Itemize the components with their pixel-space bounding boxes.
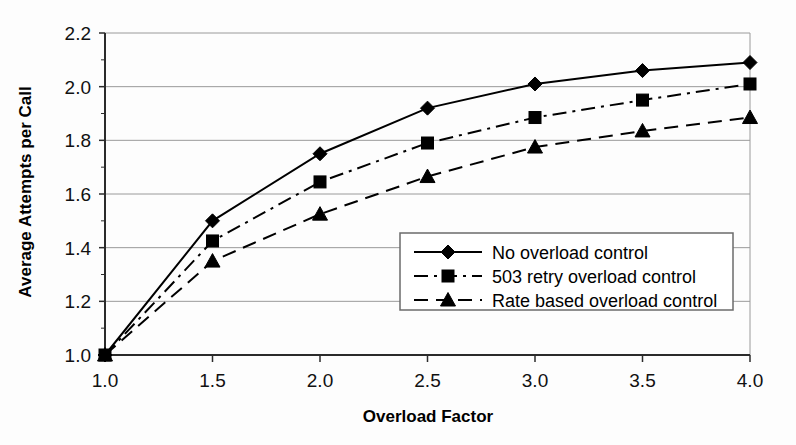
axis-ticks (99, 33, 750, 362)
legend-label: No overload control (492, 243, 648, 263)
series-1 (98, 56, 757, 362)
y-axis-title: Average Attempts per Call (16, 86, 35, 297)
diamond-marker (636, 64, 650, 78)
square-marker (442, 270, 454, 282)
diamond-marker (313, 147, 327, 161)
square-marker (207, 235, 219, 247)
x-tick-label: 2.0 (307, 370, 333, 391)
x-axis-title: Overload Factor (363, 407, 494, 426)
x-tick-label: 3.5 (629, 370, 655, 391)
y-tick-label: 1.8 (65, 130, 91, 151)
square-marker (314, 176, 326, 188)
square-marker (744, 78, 756, 90)
series-2 (99, 78, 756, 361)
y-tick-label: 1.0 (65, 345, 91, 366)
triangle-marker (205, 254, 220, 268)
diamond-marker (528, 77, 542, 91)
chart-legend: No overload control503 retry overload co… (400, 233, 733, 311)
square-marker (637, 94, 649, 106)
y-axis-tick-labels: 1.01.21.41.61.82.02.2 (65, 23, 92, 366)
diamond-marker (421, 101, 435, 115)
x-tick-label: 1.0 (92, 370, 118, 391)
triangle-marker (313, 207, 328, 221)
x-axis-tick-labels: 1.01.52.02.53.03.54.0 (92, 370, 763, 391)
triangle-marker (743, 110, 758, 124)
y-tick-label: 1.6 (65, 184, 91, 205)
y-tick-label: 1.4 (65, 238, 92, 259)
y-tick-label: 2.0 (65, 77, 91, 98)
legend-label: Rate based overload control (492, 291, 717, 311)
series-line (105, 84, 750, 355)
line-chart: 1.01.21.41.61.82.02.2 1.01.52.02.53.03.5… (0, 0, 796, 445)
x-tick-label: 4.0 (737, 370, 763, 391)
square-marker (422, 137, 434, 149)
y-tick-label: 2.2 (65, 23, 91, 44)
x-tick-label: 2.5 (414, 370, 440, 391)
x-tick-label: 1.5 (199, 370, 225, 391)
legend-label: 503 retry overload control (492, 267, 696, 287)
diamond-marker (743, 56, 757, 70)
data-series (98, 56, 758, 362)
square-marker (529, 112, 541, 124)
x-tick-label: 3.0 (522, 370, 548, 391)
chart-figure: 1.01.21.41.61.82.02.2 1.01.52.02.53.03.5… (0, 0, 796, 445)
y-tick-label: 1.2 (65, 291, 91, 312)
